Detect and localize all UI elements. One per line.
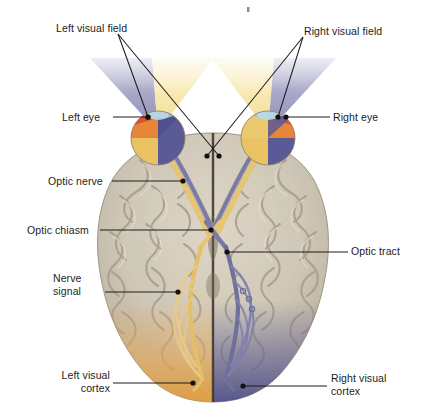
label-right-eye: Right eye [333, 111, 378, 124]
dot-optic-tract [224, 249, 229, 254]
visual-field-cones [90, 58, 336, 132]
dot-optic-chiasm [208, 227, 213, 232]
dot-nerve-signal [175, 289, 180, 294]
dot-optic-nerve [180, 178, 185, 183]
label-right-visual-field: Right visual field [304, 25, 382, 38]
dot-right-visual-field-b [275, 114, 280, 119]
label-left-visual-cortex: Left visual cortex [0, 369, 110, 394]
dot-right-eye [283, 114, 288, 119]
label-optic-tract: Optic tract [351, 245, 400, 258]
dot-left-eye [145, 114, 150, 119]
figure-canvas: Left visual field Right visual field Lef… [0, 0, 427, 419]
label-nerve-signal: Nerve signal [53, 272, 82, 297]
label-left-visual-field: Left visual field [56, 22, 127, 35]
dot-left-visual-cortex [190, 380, 195, 385]
label-optic-chiasm: Optic chiasm [27, 224, 89, 237]
visual-pathway-illustration [0, 0, 427, 419]
speck-artifact [247, 7, 249, 12]
dot-left-visual-field-a [216, 153, 221, 158]
label-right-visual-cortex: Right visual cortex [331, 372, 386, 397]
brain-axial-view [96, 133, 331, 404]
brainstem-marker [206, 273, 220, 299]
dot-right-visual-field-a [204, 153, 209, 158]
label-optic-nerve: Optic nerve [48, 175, 103, 188]
label-left-eye: Left eye [62, 111, 100, 124]
dot-right-visual-cortex [240, 383, 245, 388]
